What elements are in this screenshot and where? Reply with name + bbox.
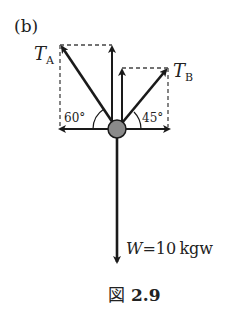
- figure-caption: 図2.9: [108, 285, 161, 305]
- force-diagram: (b) TA TB 60° 45° W=10 kgw 図2.9: [0, 0, 240, 326]
- weight-label: W=10 kgw: [126, 239, 213, 258]
- knot: [108, 120, 126, 138]
- tb-label: TB: [173, 60, 193, 84]
- angle-arc-45: [134, 112, 141, 129]
- angle-arc-60: [93, 109, 104, 129]
- ta-label: TA: [34, 43, 55, 67]
- angle-label-45: 45°: [142, 111, 163, 125]
- panel-label: (b): [14, 16, 38, 36]
- angle-label-60: 60°: [64, 111, 85, 125]
